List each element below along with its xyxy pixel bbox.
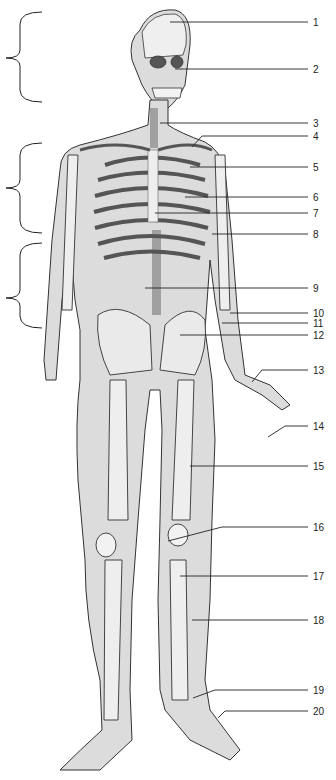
label-number: 8	[313, 229, 319, 240]
label-4: 4	[192, 131, 319, 148]
label-number: 16	[313, 522, 325, 533]
label-number: 19	[313, 685, 325, 696]
label-number: 18	[313, 615, 325, 626]
leader-line	[252, 370, 308, 382]
label-number: 15	[313, 461, 325, 472]
leader-line	[218, 711, 308, 718]
label-number: 13	[313, 365, 325, 376]
label-number: 6	[313, 192, 319, 203]
label-number: 9	[313, 283, 319, 294]
body-silhouette	[44, 10, 290, 770]
bracket-head	[6, 12, 42, 102]
label-number: 20	[313, 706, 325, 717]
label-number: 3	[313, 118, 319, 129]
skeleton-figure: 1234567891011121314151617181920	[0, 0, 336, 780]
label-number: 4	[313, 131, 319, 142]
label-number: 1	[313, 17, 319, 28]
label-13: 13	[252, 365, 325, 383]
label-10: 10	[230, 308, 325, 319]
label-1: 1	[170, 17, 319, 28]
bracket-abdomen	[6, 243, 42, 328]
label-number: 17	[313, 571, 325, 582]
label-3: 3	[160, 118, 319, 129]
bracket-thorax	[6, 143, 42, 233]
label-number: 7	[313, 208, 319, 219]
label-number: 11	[313, 318, 324, 329]
label-19: 19	[193, 685, 325, 699]
leader-line	[193, 690, 308, 698]
sternum	[148, 150, 158, 222]
label-2: 2	[175, 64, 319, 75]
label-number: 14	[313, 421, 325, 432]
label-14: 14	[268, 421, 325, 438]
label-number: 12	[313, 330, 325, 341]
label-number: 2	[313, 64, 319, 75]
label-18: 18	[192, 615, 325, 626]
label-20: 20	[218, 706, 325, 719]
label-number: 5	[313, 162, 319, 173]
leader-line	[268, 426, 308, 437]
